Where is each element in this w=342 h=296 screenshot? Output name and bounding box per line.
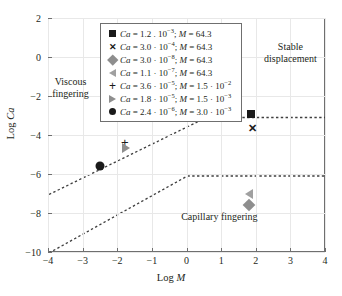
phase-diagram-figure: −4−3−2−101234 20−2−4−6−8−10 ✕+ Viscousfi… xyxy=(0,0,342,296)
data-point-cross: ✕ xyxy=(248,123,257,134)
y-tick-mark xyxy=(48,57,52,58)
legend-ca-symbol: Ca xyxy=(120,29,131,39)
right-triangle-glyph xyxy=(122,143,130,153)
legend-m-exponent: −2 xyxy=(224,79,231,86)
data-point-right-triangle xyxy=(122,143,130,153)
legend-item-label: Ca = 1.8 · 10−5; M = 1.5 · 10−3 xyxy=(120,94,231,104)
y-tick-label: 2 xyxy=(0,13,41,24)
x-tick-label: 3 xyxy=(288,255,293,266)
legend-item: Ca = 1.2 . 10−3; M = 64.3 xyxy=(105,27,237,40)
x-axis-title-symbol: M xyxy=(176,272,185,283)
legend-ca-value: = 1.2 . 10 xyxy=(131,29,168,39)
legend-marker-right-triangle xyxy=(105,92,120,105)
legend-ca-exponent: −7 xyxy=(168,66,175,73)
legend-item: +Ca = 3.6 · 10−5; M = 1.5 · 10−2 xyxy=(105,79,237,92)
circle-glyph xyxy=(109,108,117,116)
legend-ca-value: = 1.1 · 10 xyxy=(131,68,168,78)
gridline-horizontal xyxy=(48,174,325,175)
legend-marker-circle xyxy=(105,105,120,118)
x-tick-mark xyxy=(221,248,222,252)
x-tick-mark xyxy=(290,248,291,252)
legend-marker-left-triangle xyxy=(105,66,120,79)
plus-glyph: + xyxy=(109,81,116,91)
legend-ca-symbol: Ca xyxy=(120,68,131,78)
viscous-fingering-line2: fingering xyxy=(52,87,89,99)
y-tick-label: 0 xyxy=(0,52,41,63)
legend-ca-exponent: −8 xyxy=(168,53,175,60)
legend-m-value: = 64.3 xyxy=(186,29,211,39)
x-tick-label: −4 xyxy=(43,255,54,266)
y-axis-title-symbol: Ca xyxy=(5,108,16,120)
legend-ca-symbol: Ca xyxy=(120,94,131,104)
legend-item: ✕Ca = 3.0 · 10−4; M = 64.3 xyxy=(105,40,237,53)
legend-m-value: = 64.3 xyxy=(187,68,212,78)
y-tick-mark xyxy=(48,252,52,253)
y-tick-mark xyxy=(48,213,52,214)
x-tick-label: 1 xyxy=(219,255,224,266)
legend-m-value: = 64.3 xyxy=(187,55,212,65)
legend-m-value: = 1.5 · 10 xyxy=(187,94,224,104)
cross-glyph: ✕ xyxy=(248,123,257,134)
legend-ca-symbol: Ca xyxy=(120,55,131,65)
y-tick-mark xyxy=(48,135,52,136)
x-tick-mark xyxy=(187,248,188,252)
data-point-circle xyxy=(95,162,104,171)
y-tick-label: −10 xyxy=(0,247,41,258)
legend-m-symbol: M xyxy=(180,81,188,91)
legend-m-value: = 3.0 · 10 xyxy=(187,107,224,117)
y-axis-title: Log Ca xyxy=(5,92,16,156)
diamond-glyph xyxy=(242,199,255,212)
gridline-horizontal xyxy=(48,135,325,136)
data-point-left-triangle xyxy=(245,189,253,199)
x-tick-label: 4 xyxy=(323,255,328,266)
legend-ca-exponent: −3 xyxy=(167,27,174,34)
upper-boundary xyxy=(49,117,326,194)
left-triangle-glyph xyxy=(109,69,116,77)
legend-m-symbol: M xyxy=(180,107,188,117)
legend-item-label: Ca = 3.0 · 10−8; M = 64.3 xyxy=(120,55,212,65)
x-tick-mark xyxy=(117,248,118,252)
legend-item-label: Ca = 1.2 . 10−3; M = 64.3 xyxy=(120,29,212,39)
legend-m-symbol: M xyxy=(180,68,188,78)
legend: Ca = 1.2 . 10−3; M = 64.3✕Ca = 3.0 · 10−… xyxy=(100,23,242,122)
legend-item-label: Ca = 2.4 · 10−6; M = 3.0 · 10−3 xyxy=(120,107,231,117)
gridline-vertical xyxy=(325,18,326,252)
x-tick-mark xyxy=(325,248,326,252)
x-axis-title: Log M xyxy=(0,272,342,283)
cross-glyph: ✕ xyxy=(109,42,117,52)
legend-marker-diamond xyxy=(105,53,120,66)
legend-ca-symbol: Ca xyxy=(120,107,131,117)
y-tick-mark xyxy=(48,18,52,19)
circle-glyph xyxy=(95,162,104,171)
data-point-square xyxy=(247,110,255,118)
diamond-glyph xyxy=(107,54,118,65)
x-tick-label: −3 xyxy=(77,255,88,266)
stable-displacement-label: Stabledisplacement xyxy=(264,41,317,64)
legend-ca-exponent: −6 xyxy=(168,105,175,112)
y-axis-title-prefix: Log xyxy=(5,120,16,140)
legend-m-symbol: M xyxy=(180,94,188,104)
x-tick-mark xyxy=(152,248,153,252)
x-tick-mark xyxy=(83,248,84,252)
legend-ca-exponent: −5 xyxy=(168,92,175,99)
x-tick-label: −2 xyxy=(112,255,123,266)
legend-marker-plus: + xyxy=(105,79,120,92)
legend-ca-value: = 1.8 · 10 xyxy=(131,94,168,104)
legend-ca-symbol: Ca xyxy=(120,81,131,91)
legend-ca-value: = 3.0 · 10 xyxy=(131,42,168,52)
square-glyph xyxy=(247,110,255,118)
legend-m-value: = 64.3 xyxy=(187,42,212,52)
y-tick-label: −8 xyxy=(0,208,41,219)
gridline-horizontal xyxy=(48,252,325,253)
left-triangle-glyph xyxy=(245,189,253,199)
stable-displacement-line1: Stable xyxy=(264,41,317,53)
legend-m-symbol: M xyxy=(180,55,188,65)
legend-m-value: = 1.5 · 10 xyxy=(187,81,224,91)
data-point-diamond xyxy=(244,201,253,210)
right-triangle-glyph xyxy=(109,95,116,103)
legend-ca-symbol: Ca xyxy=(120,42,131,52)
legend-item-label: Ca = 1.1 · 10−7; M = 64.3 xyxy=(120,68,212,78)
legend-item: Ca = 1.8 · 10−5; M = 1.5 · 10−3 xyxy=(105,92,237,105)
legend-ca-value: = 3.0 · 10 xyxy=(131,55,168,65)
x-tick-label: −1 xyxy=(147,255,158,266)
